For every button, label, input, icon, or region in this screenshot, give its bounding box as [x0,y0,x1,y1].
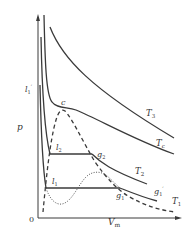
isotherm-label-T1: T1 [172,196,181,207]
T1-sub: 1 [178,201,182,207]
point-label-l2: l2 [56,143,62,153]
x-axis-label: Vm [108,217,121,228]
x-axis-label-sub: m [115,221,121,228]
axes [36,14,182,220]
point-label-g2: g2 [97,150,105,160]
Tc-sub: c [162,143,165,149]
isotherm-label-T2: T2 [135,166,144,177]
y-axis-label: p [17,122,23,132]
y-axis-arrow-icon [36,14,40,21]
l1-prime-mark: ′ [31,83,33,90]
origin-label: 0 [29,215,34,224]
g1-prime-mark: ′ [162,185,164,192]
l1-sub: 1 [55,181,58,187]
g2-sub: 2 [102,154,105,160]
x-axis-arrow-icon [175,216,182,220]
isotherm-T3 [50,27,174,138]
point-label-g1-prime: g1′ [154,185,164,197]
T3-sub: 3 [152,113,156,119]
isotherm-Tc [44,15,174,154]
pv-diagram: 0 p Vm l1′ T3 Tc c T2 l2 g2 l1 g1 [0,0,196,237]
isotherm-label-T3: T3 [146,108,156,119]
point-label-g1: g1 [116,191,124,201]
critical-point-label: c [61,98,66,107]
T2-sub: 2 [141,171,145,177]
point-label-l1: l1 [52,177,58,187]
point-label-l1-prime: l1′ [25,83,33,95]
isotherm-label-Tc: Tc [156,138,165,149]
g1-sub: 1 [121,195,124,201]
l2-sub: 2 [59,147,62,153]
